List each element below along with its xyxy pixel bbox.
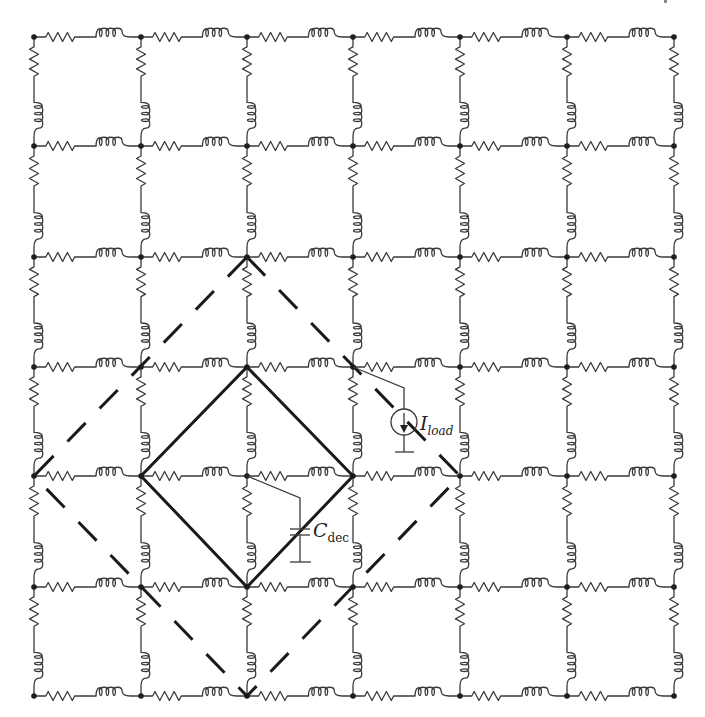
resistor-inductor-edge-vertical <box>137 146 150 257</box>
resistor-inductor-edge-vertical <box>670 146 683 257</box>
resistor-inductor-edge-vertical <box>137 367 150 476</box>
resistor-inductor-edge-horizontal <box>34 578 141 591</box>
grid-node <box>350 254 356 260</box>
resistor-inductor-edge-horizontal <box>567 248 674 261</box>
decoupling-capacitor: Cdec <box>247 476 349 562</box>
grid-node <box>457 584 463 590</box>
resistor-inductor-edge-horizontal <box>247 358 353 371</box>
grid-node <box>564 693 570 699</box>
resistor-inductor-edge-vertical <box>30 587 43 696</box>
grid-node <box>457 693 463 699</box>
grid-node <box>564 34 570 40</box>
resistor-inductor-edge-vertical <box>30 367 43 476</box>
load-current-source: Iload <box>353 367 454 452</box>
resistor-inductor-edge-horizontal <box>247 578 353 591</box>
resistor-inductor-edge-horizontal <box>460 578 567 591</box>
resistor-inductor-edge-vertical <box>243 37 256 146</box>
resistor-inductor-edge-horizontal <box>247 467 353 480</box>
resistor-inductor-edge-vertical <box>137 476 150 587</box>
resistor-inductor-edge-vertical <box>30 257 43 367</box>
resistor-inductor-edge-vertical <box>243 146 256 257</box>
resistor-inductor-edge-vertical <box>563 587 576 696</box>
grid-node <box>350 34 356 40</box>
grid-node <box>31 364 37 370</box>
resistor-inductor-edge-vertical <box>30 476 43 587</box>
resistor-inductor-edge-horizontal <box>353 248 460 261</box>
resistor-inductor-edge-horizontal <box>567 578 674 591</box>
grid-node <box>31 254 37 260</box>
resistor-inductor-edge-horizontal <box>34 248 141 261</box>
resistor-inductor-edge-vertical <box>243 257 256 367</box>
resistor-inductor-edge-horizontal <box>141 467 247 480</box>
resistor-inductor-edge-horizontal <box>34 467 141 480</box>
resistor-inductor-edge-vertical <box>456 37 469 146</box>
resistor-inductor-edge-vertical <box>349 587 362 696</box>
resistor-inductor-edge-horizontal <box>141 687 247 700</box>
resistor-inductor-edge-horizontal <box>460 687 567 700</box>
resistor-inductor-edge-horizontal <box>141 358 247 371</box>
grid-node <box>31 34 37 40</box>
grid-node <box>564 364 570 370</box>
grid-node <box>671 364 677 370</box>
grid-node <box>138 143 144 149</box>
grid-node <box>138 34 144 40</box>
grid-node <box>350 693 356 699</box>
grid-node <box>138 693 144 699</box>
resistor-inductor-edge-vertical <box>456 367 469 476</box>
grid-node <box>564 254 570 260</box>
resistor-inductor-edge-vertical <box>563 146 576 257</box>
resistor-inductor-edge-horizontal <box>567 467 674 480</box>
grid-node <box>244 34 250 40</box>
resistor-inductor-edge-vertical <box>563 367 576 476</box>
resistor-inductor-edge-horizontal <box>460 467 567 480</box>
resistor-inductor-edge-vertical <box>243 476 256 587</box>
resistor-inductor-edge-vertical <box>137 257 150 367</box>
resistor-inductor-edge-horizontal <box>34 28 141 41</box>
mesh-edges <box>30 28 683 700</box>
grid-node <box>564 473 570 479</box>
resistor-inductor-edge-horizontal <box>141 137 247 150</box>
resistor-inductor-edge-horizontal <box>353 687 460 700</box>
grid-node <box>564 143 570 149</box>
resistor-inductor-edge-vertical <box>349 37 362 146</box>
resistor-inductor-edge-horizontal <box>34 687 141 700</box>
resistor-inductor-edge-vertical <box>670 37 683 146</box>
iload-label: Iload <box>419 412 454 438</box>
grid-node <box>564 584 570 590</box>
resistor-inductor-edge-horizontal <box>353 358 460 371</box>
grid-node <box>457 364 463 370</box>
resistor-inductor-edge-horizontal <box>353 28 460 41</box>
resistor-inductor-edge-vertical <box>349 367 362 476</box>
resistor-inductor-edge-vertical <box>243 367 256 476</box>
cdec-label: Cdec <box>313 519 349 545</box>
resistor-inductor-edge-vertical <box>670 257 683 367</box>
resistor-inductor-edge-vertical <box>30 37 43 146</box>
grid-node <box>671 143 677 149</box>
resistor-inductor-edge-vertical <box>456 587 469 696</box>
resistor-inductor-edge-horizontal <box>247 28 353 41</box>
resistor-inductor-edge-vertical <box>137 587 150 696</box>
resistor-inductor-edge-vertical <box>563 37 576 146</box>
grid-node <box>671 584 677 590</box>
resistor-inductor-edge-horizontal <box>567 687 674 700</box>
resistor-inductor-edge-vertical <box>456 257 469 367</box>
grid-node <box>138 254 144 260</box>
resistor-inductor-edge-vertical <box>456 146 469 257</box>
resistor-inductor-edge-vertical <box>670 587 683 696</box>
grid-node <box>350 143 356 149</box>
resistor-inductor-edge-vertical <box>563 257 576 367</box>
grid-node <box>457 473 463 479</box>
resistor-inductor-edge-vertical <box>243 587 256 696</box>
grid-node <box>671 693 677 699</box>
resistor-inductor-edge-horizontal <box>141 578 247 591</box>
grid-node <box>671 254 677 260</box>
resistor-inductor-edge-vertical <box>349 476 362 587</box>
resistor-inductor-edge-vertical <box>30 146 43 257</box>
grid-node <box>671 34 677 40</box>
resistor-inductor-edge-vertical <box>563 476 576 587</box>
resistor-inductor-edge-vertical <box>670 367 683 476</box>
resistor-inductor-edge-vertical <box>137 37 150 146</box>
resistor-inductor-edge-horizontal <box>567 28 674 41</box>
resistor-inductor-edge-horizontal <box>460 137 567 150</box>
resistor-inductor-edge-vertical <box>670 476 683 587</box>
